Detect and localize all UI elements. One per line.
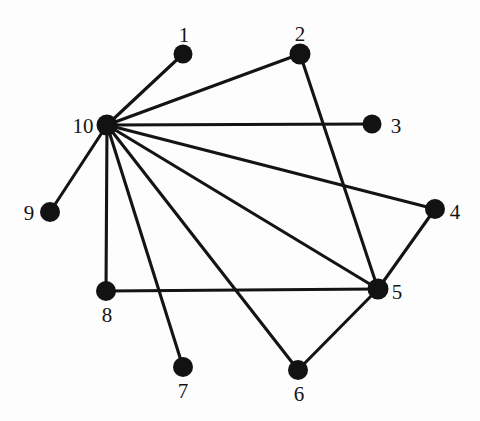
graph-node-label-3: 3 xyxy=(391,116,402,137)
graph-node-10 xyxy=(97,115,118,136)
graph-node-8 xyxy=(96,281,116,301)
graph-edge-10-2 xyxy=(107,54,300,125)
graph-node-label-9: 9 xyxy=(24,203,35,224)
graph-node-4 xyxy=(425,199,445,219)
graph-edge-10-1 xyxy=(107,54,183,125)
graph-node-2 xyxy=(290,44,311,65)
graph-node-6 xyxy=(288,360,308,380)
graph-edge-10-5 xyxy=(107,125,378,289)
graph-node-9 xyxy=(40,202,60,222)
graph-node-5 xyxy=(368,279,389,300)
graph-edge-4-5 xyxy=(378,209,435,289)
graph-edge-10-4 xyxy=(107,125,435,209)
graph-node-1 xyxy=(174,45,193,64)
graph-edge-2-5 xyxy=(300,54,378,289)
graph-node-label-2: 2 xyxy=(295,24,306,45)
graph-node-label-4: 4 xyxy=(450,202,461,223)
graph-node-label-5: 5 xyxy=(392,282,403,303)
graph-node-label-8: 8 xyxy=(102,305,113,326)
graph-canvas xyxy=(0,0,480,421)
graph-edge-10-3 xyxy=(107,124,372,125)
graph-edge-10-9 xyxy=(50,125,107,212)
graph-edge-10-6 xyxy=(107,125,298,370)
graph-figure: 12345678910 xyxy=(0,0,480,421)
graph-node-label-6: 6 xyxy=(294,384,305,405)
graph-node-7 xyxy=(173,357,193,377)
graph-edge-10-7 xyxy=(107,125,183,367)
graph-node-label-10: 10 xyxy=(73,116,94,137)
graph-edge-10-8 xyxy=(106,125,107,291)
graph-node-label-1: 1 xyxy=(179,25,190,46)
node-layer xyxy=(40,44,445,381)
graph-node-3 xyxy=(363,115,382,134)
graph-node-label-7: 7 xyxy=(178,381,189,402)
graph-edge-5-6 xyxy=(298,289,378,370)
graph-edge-5-8 xyxy=(106,289,378,291)
